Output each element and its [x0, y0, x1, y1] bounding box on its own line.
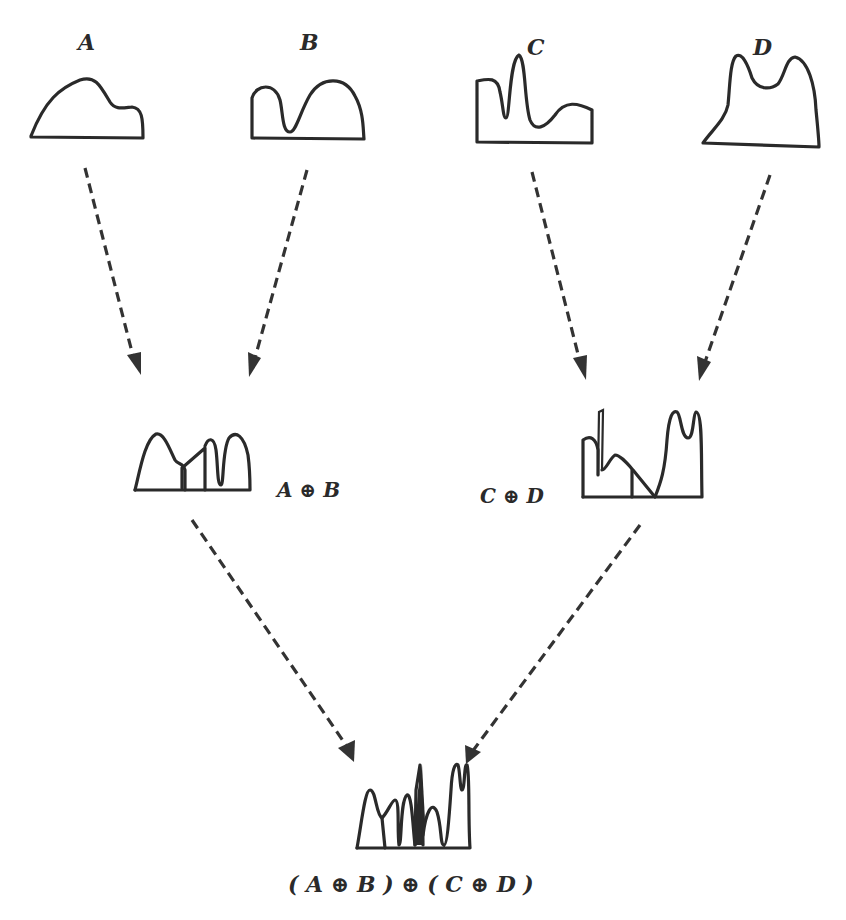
- shape-b: [252, 81, 364, 139]
- arrow-c-to-cd: [532, 172, 587, 380]
- arrow-b-to-ab: [248, 170, 307, 377]
- shape-c: [477, 55, 592, 143]
- arrow-a-to-ab: [85, 168, 141, 375]
- shape-c-plus-d: [583, 410, 702, 497]
- shape-d: [703, 55, 819, 147]
- label-b: B: [299, 29, 319, 55]
- label-a-plus-b: A ⊕ B: [275, 478, 340, 502]
- label-result: ( A ⊕ B ) ⊕ ( C ⊕ D ): [288, 871, 534, 897]
- label-a: A: [76, 29, 95, 55]
- shape-a: [31, 79, 143, 138]
- shape-a-plus-b: [135, 434, 250, 490]
- merge-diagram: A B C D A ⊕ B C ⊕ D: [0, 0, 846, 920]
- label-c-plus-d: C ⊕ D: [480, 484, 545, 508]
- arrow-d-to-cd: [697, 175, 770, 381]
- arrow-cd-to-result: [465, 525, 640, 764]
- label-c: C: [527, 34, 545, 60]
- arrow-ab-to-result: [192, 520, 355, 762]
- label-d: D: [752, 34, 772, 60]
- shape-result: [357, 764, 470, 848]
